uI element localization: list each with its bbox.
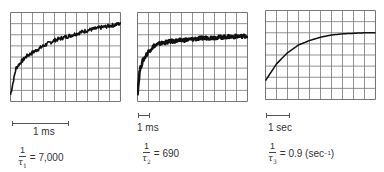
oscilloscope-grid-2 [137,12,248,102]
numerator-1: 1 [19,146,26,157]
time-scale-bar-2 [138,113,150,118]
oscilloscope-grid-1 [10,12,121,102]
rate-value-3: = 0.9 (sec [280,148,324,159]
time-scale-label-2: 1 ms [137,122,159,133]
rate-formula-3: 1τ3 = 0.9 (sec−1) [268,142,334,165]
rate-formula-1: 1τ1 = 7,000 [18,146,63,169]
rate-formula-2: 1τ2 = 690 [142,142,179,165]
oscilloscope-grid-3 [265,10,376,100]
numerator-2: 1 [143,142,150,153]
rate-value-1: = 7,000 [30,152,64,163]
tau-subscript: 1 [23,162,27,169]
rate-value-2: = 690 [154,148,179,159]
time-scale-label-1: 1 ms [33,126,55,137]
rate-close-3: ) [331,148,334,159]
time-scale-bar-3 [266,113,290,118]
tau-subscript: 3 [273,158,277,165]
time-scale-label-3: 1 sec [268,122,292,133]
tau-subscript: 2 [147,158,151,165]
unit-exponent-3: −1 [324,150,331,156]
numerator-3: 1 [269,142,276,153]
